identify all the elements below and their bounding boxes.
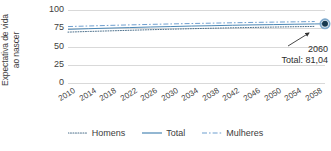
y-axis-label: Expectativa de vida ao nascer bbox=[0, 0, 26, 105]
y-axis-label-line-1: Expectativa de vida bbox=[0, 0, 11, 105]
life-expectancy-line-chart: Expectativa de vida ao nascer 0255075100… bbox=[0, 0, 331, 151]
annotation-marker-dot bbox=[322, 21, 328, 27]
y-axis-label-line-2: ao nascer bbox=[11, 0, 22, 105]
legend-item-mulheres[interactable]: Mulheres bbox=[202, 128, 263, 138]
legend-item-homens[interactable]: Homens bbox=[68, 128, 126, 138]
y-axis-tick: 25 bbox=[26, 59, 64, 69]
legend-swatch-dash-dot-icon bbox=[202, 129, 222, 137]
legend-label: Total bbox=[166, 128, 185, 138]
y-axis-tick: 0 bbox=[26, 77, 64, 87]
legend-label: Homens bbox=[92, 128, 126, 138]
y-axis-tick: 50 bbox=[26, 41, 64, 51]
legend-swatch-solid-icon bbox=[142, 129, 162, 137]
chart-legend: HomensTotalMulheres bbox=[0, 128, 331, 138]
gridline bbox=[68, 83, 325, 84]
x-axis-tick: 2058 bbox=[297, 86, 324, 107]
annotation-label: 2060 Total: 81,04 bbox=[236, 44, 328, 66]
annotation-value: Total: 81,04 bbox=[236, 55, 328, 66]
legend-label: Mulheres bbox=[226, 128, 263, 138]
legend-item-total[interactable]: Total bbox=[142, 128, 185, 138]
legend-swatch-dotted-icon bbox=[68, 129, 88, 137]
y-axis-tick: 100 bbox=[26, 4, 64, 14]
series-line-homens bbox=[68, 26, 315, 32]
annotation-year: 2060 bbox=[236, 44, 328, 55]
y-axis-tick: 75 bbox=[26, 22, 64, 32]
